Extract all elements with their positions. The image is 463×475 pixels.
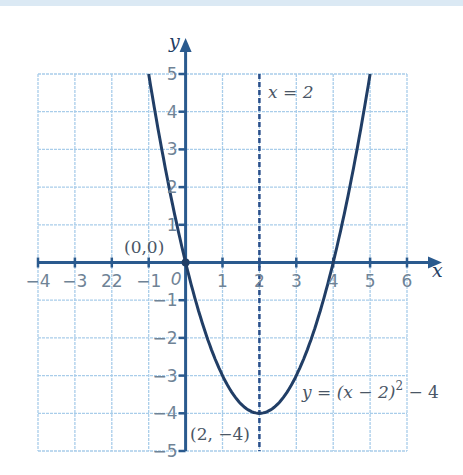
y-tick-label: −4 bbox=[153, 403, 178, 423]
y-tick-label: −3 bbox=[153, 366, 178, 386]
origin-point bbox=[182, 259, 190, 267]
vertex-label: (2, −4) bbox=[190, 424, 250, 444]
points bbox=[182, 259, 190, 267]
x-tick-label: 22 bbox=[101, 271, 123, 291]
x-tick-label: 1 bbox=[217, 271, 228, 291]
curve-equation-main: y = (x − 2) bbox=[301, 382, 395, 402]
symmetry-line-label: x = 2 bbox=[268, 82, 313, 102]
x-tick-label: 5 bbox=[365, 271, 376, 291]
x-tick-label: −3 bbox=[62, 271, 87, 291]
y-tick-label: 3 bbox=[167, 139, 178, 159]
x-axis-label: x bbox=[432, 259, 443, 281]
x-tick-label: 6 bbox=[402, 271, 413, 291]
x-tick-label: 4 bbox=[328, 271, 339, 291]
y-tick-label: 1 bbox=[167, 215, 178, 235]
curve-equation-exponent: 2 bbox=[395, 379, 403, 393]
curve-equation-label: y = (x − 2)2 − 4 bbox=[301, 379, 439, 402]
x-tick-label: 3 bbox=[291, 271, 302, 291]
x-tick-label: −1 bbox=[136, 271, 161, 291]
x-tick-label: 2 bbox=[254, 271, 265, 291]
quadratic-graph: −4−322−112345654321−1−2−3−4−50 y x x = 2… bbox=[0, 0, 463, 475]
y-tick-label: 2 bbox=[167, 177, 178, 197]
origin-label: 0 bbox=[171, 269, 182, 289]
x-tick-label: −4 bbox=[25, 271, 50, 291]
origin-point-label: (0,0) bbox=[124, 237, 164, 257]
y-tick-label: −2 bbox=[153, 328, 178, 348]
y-tick-label: −5 bbox=[153, 441, 178, 461]
curve-equation-rest: − 4 bbox=[403, 382, 439, 402]
y-tick-label: 4 bbox=[167, 102, 178, 122]
y-tick-label: −1 bbox=[153, 290, 178, 310]
y-axis-label: y bbox=[168, 30, 180, 52]
y-tick-label: 5 bbox=[167, 64, 178, 84]
y-axis-arrow-icon bbox=[180, 38, 192, 52]
